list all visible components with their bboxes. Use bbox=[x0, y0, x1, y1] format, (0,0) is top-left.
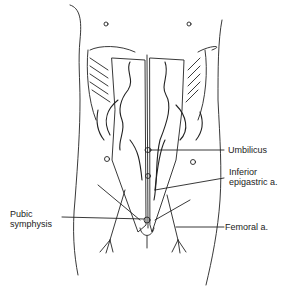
asis-left bbox=[105, 157, 110, 162]
ribs-right bbox=[186, 46, 217, 120]
rectus-left bbox=[112, 58, 146, 232]
inguinal-left bbox=[98, 185, 140, 220]
femoral-left bbox=[100, 190, 125, 253]
leader-inferior-epigastric bbox=[155, 178, 224, 190]
torso-right-outline bbox=[206, 20, 222, 285]
asis-right bbox=[191, 160, 196, 165]
label-femoral: Femoral a. bbox=[225, 222, 268, 232]
nipple-left bbox=[104, 22, 108, 26]
nipple-right bbox=[187, 22, 191, 26]
ribs-left bbox=[87, 46, 135, 120]
torso-left-outline bbox=[70, 5, 81, 275]
label-pubic-symphysis: Pubic symphysis bbox=[10, 209, 52, 229]
pubic-symphysis bbox=[144, 217, 150, 223]
leader-pubic-symphysis bbox=[62, 217, 144, 219]
label-inferior-epigastric: Inferior epigastric a. bbox=[229, 167, 278, 187]
label-umbilicus: Umbilicus bbox=[228, 145, 267, 155]
linea-alba bbox=[147, 55, 148, 228]
